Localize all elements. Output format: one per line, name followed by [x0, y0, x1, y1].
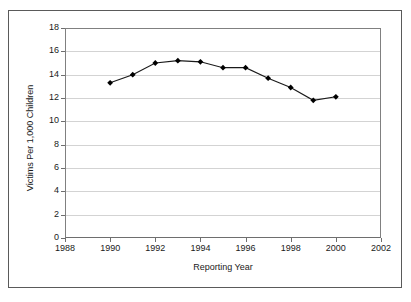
- y-axis-tick-label: 14: [19, 70, 59, 79]
- x-axis-tick-label: 1990: [88, 243, 132, 253]
- x-axis-tick-label: 2002: [359, 243, 403, 253]
- y-axis-tick-label: 0: [19, 233, 59, 242]
- x-axis-title: Reporting Year: [65, 262, 381, 272]
- gridline: [66, 75, 380, 76]
- x-axis-tick-mark: [155, 238, 156, 242]
- y-axis-tick-label: 18: [19, 23, 59, 32]
- y-axis-tick-label: 16: [19, 46, 59, 55]
- y-axis-tick-label: 12: [19, 93, 59, 102]
- x-axis-tick-mark: [200, 238, 201, 242]
- x-axis-tick-mark: [381, 238, 382, 242]
- gridline: [66, 98, 380, 99]
- gridline: [66, 168, 380, 169]
- y-axis-tick-label: 10: [19, 116, 59, 125]
- gridline: [66, 121, 380, 122]
- x-axis-tick-mark: [246, 238, 247, 242]
- x-axis-tick-mark: [336, 238, 337, 242]
- x-axis-tick-label: 1998: [269, 243, 313, 253]
- y-axis-tick-label: 2: [19, 210, 59, 219]
- gridline: [66, 215, 380, 216]
- x-axis-tick-label: 2000: [314, 243, 358, 253]
- x-axis-tick-label: 1992: [133, 243, 177, 253]
- x-axis-tick-label: 1994: [178, 243, 222, 253]
- gridline: [66, 145, 380, 146]
- x-axis-tick-label: 1996: [224, 243, 268, 253]
- y-axis-tick-label: 8: [19, 140, 59, 149]
- x-axis-tick-label: 1988: [43, 243, 87, 253]
- x-axis-tick-mark: [110, 238, 111, 242]
- plot-area: [65, 28, 381, 238]
- y-axis-tick-label: 4: [19, 186, 59, 195]
- x-axis-tick-mark: [65, 238, 66, 242]
- y-axis-tick-label: 6: [19, 163, 59, 172]
- x-axis-tick-mark: [291, 238, 292, 242]
- gridline: [66, 28, 380, 29]
- gridline: [66, 191, 380, 192]
- gridline: [66, 51, 380, 52]
- chart-figure: Victims Per 1,000 Children 0246810121416…: [0, 0, 411, 302]
